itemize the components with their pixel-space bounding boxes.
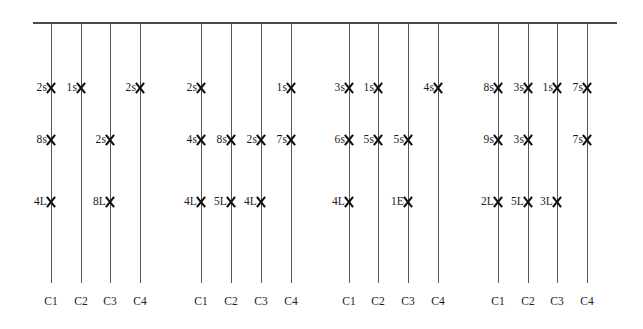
drop-line-group-4-c2 — [528, 24, 529, 283]
drop-line-group-2-c2 — [231, 24, 232, 283]
drop-line-group-1-c3 — [110, 24, 111, 283]
marker-label: 2s — [96, 134, 107, 146]
marker-label: 4s — [187, 134, 198, 146]
drop-line-group-1-c1 — [51, 24, 52, 283]
marker-label: 8s — [484, 82, 495, 94]
category-label-c4: C4 — [133, 296, 146, 308]
marker-label: 2s — [247, 134, 258, 146]
category-label-c3: C3 — [401, 296, 414, 308]
marker-label: 5L — [511, 196, 525, 208]
marker-label: 3L — [540, 196, 554, 208]
marker-label: 4s — [424, 82, 435, 94]
drop-line-group-3-c4 — [438, 24, 439, 283]
marker-label: 8s — [217, 134, 228, 146]
marker-label: 6s — [335, 134, 346, 146]
category-label-c4: C4 — [284, 296, 297, 308]
drop-line-group-2-c4 — [291, 24, 292, 283]
marker-label: 4L — [184, 196, 198, 208]
marker-label: 4L — [244, 196, 258, 208]
category-label-c3: C3 — [103, 296, 116, 308]
category-label-c3: C3 — [550, 296, 563, 308]
drop-line-group-1-c4 — [140, 24, 141, 283]
marker-label: 1s — [67, 82, 78, 94]
category-label-c2: C2 — [521, 296, 534, 308]
category-label-c2: C2 — [224, 296, 237, 308]
marker-label: 2s — [187, 82, 198, 94]
marker-label: 5L — [214, 196, 228, 208]
category-label-c1: C1 — [194, 296, 207, 308]
drop-line-group-4-c3 — [557, 24, 558, 283]
marker-label: 8s — [37, 134, 48, 146]
category-label-c4: C4 — [431, 296, 444, 308]
category-label-c2: C2 — [74, 296, 87, 308]
marker-label: 7s — [573, 134, 584, 146]
marker-label: 1E — [391, 196, 405, 208]
marker-label: 4L — [332, 196, 346, 208]
marker-label: 4L — [34, 196, 48, 208]
marker-label: 2L — [481, 196, 495, 208]
marker-label: 3s — [514, 82, 525, 94]
marker-label: 2s — [126, 82, 137, 94]
category-label-c1: C1 — [342, 296, 355, 308]
marker-label: 7s — [277, 134, 288, 146]
marker-label: 8L — [93, 196, 107, 208]
category-label-c3: C3 — [254, 296, 267, 308]
top-axis-rail — [33, 22, 617, 24]
category-label-c1: C1 — [491, 296, 504, 308]
marker-label: 1s — [364, 82, 375, 94]
category-label-c4: C4 — [580, 296, 593, 308]
drop-line-group-2-c3 — [261, 24, 262, 283]
drop-line-group-3-c3 — [408, 24, 409, 283]
category-label-c2: C2 — [371, 296, 384, 308]
marker-label: 5s — [394, 134, 405, 146]
marker-label: 1s — [277, 82, 288, 94]
marker-label: 5s — [364, 134, 375, 146]
marker-label: 9s — [484, 134, 495, 146]
drop-line-group-1-c2 — [81, 24, 82, 283]
chart-canvas: 2s8s4L1s2s8L2s2s4s4L8s5L2s4L1s7s3s6s4L1s… — [0, 0, 643, 329]
marker-label: 7s — [573, 82, 584, 94]
marker-label: 1s — [543, 82, 554, 94]
marker-label: 2s — [37, 82, 48, 94]
drop-line-group-4-c1 — [498, 24, 499, 283]
marker-label: 3s — [335, 82, 346, 94]
marker-label: 3s — [514, 134, 525, 146]
drop-line-group-3-c2 — [378, 24, 379, 283]
drop-line-group-2-c1 — [201, 24, 202, 283]
category-label-c1: C1 — [44, 296, 57, 308]
drop-line-group-3-c1 — [349, 24, 350, 283]
drop-line-group-4-c4 — [587, 24, 588, 283]
